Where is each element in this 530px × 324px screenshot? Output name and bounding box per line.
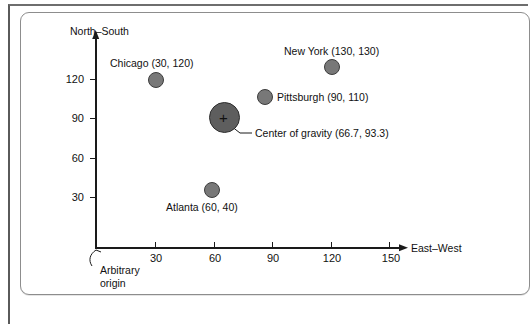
arbitrary-origin-note: Arbitrary origin	[100, 264, 140, 289]
y-axis-line	[95, 36, 97, 248]
y-tick-90	[90, 118, 97, 119]
x-tick-90	[272, 242, 273, 249]
label-chicago: Chicago (30, 120)	[110, 57, 193, 69]
y-tick-label-90: 90	[60, 112, 84, 124]
x-tick-label-60: 60	[202, 252, 228, 264]
y-tick-label-60: 60	[60, 152, 84, 164]
marker-new-york[interactable]	[324, 59, 340, 75]
x-tick-label-150: 150	[377, 252, 405, 264]
y-tick-60	[90, 158, 97, 159]
x-tick-label-30: 30	[143, 252, 169, 264]
marker-atlanta[interactable]	[204, 182, 220, 198]
marker-chicago[interactable]	[148, 72, 164, 88]
x-tick-label-120: 120	[318, 252, 346, 264]
origin-leader-line	[90, 250, 96, 266]
x-tick-30	[155, 242, 156, 249]
x-tick-60	[214, 242, 215, 249]
label-pittsburgh: Pittsburgh (90, 110)	[277, 91, 368, 103]
arbitrary-origin-line1: Arbitrary	[100, 264, 140, 276]
y-tick-30	[90, 197, 97, 198]
origin-leader-tip	[96, 250, 101, 252]
label-atlanta: Atlanta (60, 40)	[166, 201, 238, 213]
x-tick-150	[389, 242, 390, 249]
y-tick-label-120: 120	[60, 73, 84, 85]
x-axis-title: East–West	[411, 242, 462, 254]
x-tick-120	[331, 242, 332, 249]
arbitrary-origin-line2: origin	[100, 277, 126, 289]
label-center-of-gravity: Center of gravity (66.7, 93.3)	[255, 127, 389, 139]
x-axis-line	[95, 247, 402, 249]
y-tick-120	[90, 79, 97, 80]
y-tick-label-30: 30	[60, 191, 84, 203]
center-of-gravity-plus-icon: +	[219, 110, 228, 125]
y-axis-title: North–South	[70, 25, 129, 37]
label-new-york: New York (130, 130)	[284, 45, 379, 57]
x-tick-label-90: 90	[260, 252, 286, 264]
marker-pittsburgh[interactable]	[257, 89, 273, 105]
